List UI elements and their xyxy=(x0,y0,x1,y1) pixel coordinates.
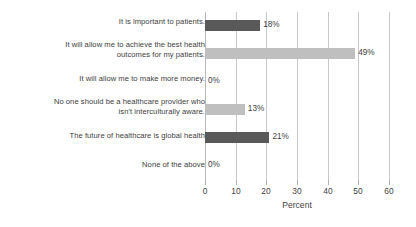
data-label-5: 0% xyxy=(208,159,220,170)
x-tick-label-3: 30 xyxy=(285,186,309,197)
x-axis-title: Percent xyxy=(205,200,389,210)
category-label-5: None of the above xyxy=(142,160,205,170)
data-label-3: 13% xyxy=(248,103,264,114)
x-tick-40 xyxy=(328,180,329,185)
horizontal-bar-chart: It is important to patients. It will all… xyxy=(0,0,416,227)
gridline-0 xyxy=(205,12,206,180)
gridline-20 xyxy=(266,12,267,180)
x-tick-label-6: 60 xyxy=(377,186,401,197)
gridline-30 xyxy=(297,12,298,180)
gridline-10 xyxy=(236,12,237,180)
bar-4 xyxy=(205,132,269,143)
x-tick-label-1: 10 xyxy=(224,186,248,197)
category-label-4: The future of healthcare is global healt… xyxy=(70,131,205,141)
x-tick-label-0: 0 xyxy=(193,186,217,197)
bar-1 xyxy=(205,48,355,59)
plot-area: 18% 49% 0% 13% 21% 0% xyxy=(205,12,389,180)
gridline-60 xyxy=(389,12,390,180)
x-tick-50 xyxy=(358,180,359,185)
category-label-1: It will allow me to achieve the best hea… xyxy=(65,40,205,59)
x-tick-label-5: 50 xyxy=(346,186,370,197)
bar-3 xyxy=(205,104,245,115)
x-tick-30 xyxy=(297,180,298,185)
x-tick-label-4: 40 xyxy=(316,186,340,197)
x-tick-60 xyxy=(389,180,390,185)
category-label-2: It will allow me to make more money. xyxy=(79,74,205,84)
bar-0 xyxy=(205,20,260,31)
category-label-0: It is important to patients. xyxy=(119,17,205,27)
category-label-3: No one should be a healthcare provider w… xyxy=(54,97,205,116)
data-label-1: 49% xyxy=(358,47,374,58)
x-tick-10 xyxy=(236,180,237,185)
data-label-2: 0% xyxy=(208,75,220,86)
data-label-0: 18% xyxy=(263,19,279,30)
gridline-40 xyxy=(328,12,329,180)
x-tick-0 xyxy=(205,180,206,185)
x-tick-20 xyxy=(266,180,267,185)
x-tick-label-2: 20 xyxy=(254,186,278,197)
data-label-4: 21% xyxy=(272,131,288,142)
gridline-50 xyxy=(358,12,359,180)
